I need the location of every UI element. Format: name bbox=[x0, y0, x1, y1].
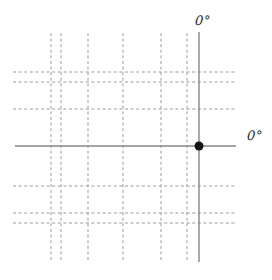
graticule-canvas bbox=[0, 0, 272, 280]
equator-label: 0° bbox=[247, 129, 264, 142]
prime-meridian-label: 0° bbox=[195, 14, 212, 27]
origin-point bbox=[195, 142, 204, 151]
graticule-diagram: 0° 0° bbox=[0, 0, 272, 280]
